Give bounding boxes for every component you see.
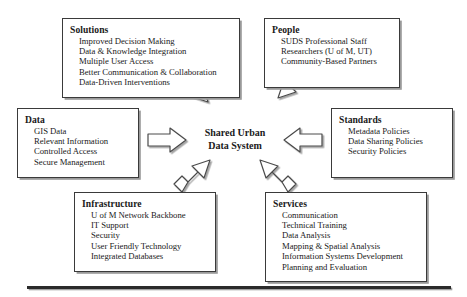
list-item: GIS Data [34, 126, 138, 136]
list-item: Multiple User Access [79, 56, 239, 66]
list-item: IT Support [91, 220, 215, 230]
list-item: Communication [282, 210, 426, 220]
node-box-services[interactable]: Services Communication Technical Trainin… [265, 192, 427, 282]
arrow-infrastructure-to-center [174, 160, 210, 192]
list-item: Better Communication & Collaboration [79, 67, 239, 77]
list-item: Information Systems Development [282, 251, 426, 261]
list-item: Data-Driven Interventions [79, 77, 239, 87]
list-item: Integrated Databases [91, 251, 215, 261]
list-item: Secure Management [34, 157, 138, 167]
bottom-divider-rule [27, 286, 451, 289]
node-box-solutions[interactable]: Solutions Improved Decision Making Data … [62, 18, 240, 98]
node-list-data: GIS Data Relevant Information Controlled… [18, 126, 138, 172]
node-list-solutions: Improved Decision Making Data & Knowledg… [63, 36, 239, 92]
diagram-canvas: Shared Urban Data System Solutions Impro… [0, 0, 467, 297]
node-box-infrastructure[interactable]: Infrastructure U of M Network Backbone I… [74, 192, 216, 272]
node-list-infrastructure: U of M Network Backbone IT Support Secur… [75, 210, 215, 266]
node-title-people: People [272, 24, 399, 36]
list-item: U of M Network Backbone [91, 210, 215, 220]
list-item: Planning and Evaluation [282, 262, 426, 272]
center-label-line-2: Data System [186, 139, 284, 152]
list-item: Relevant Information [34, 136, 138, 146]
node-list-people: SUDS Professional Staff Researchers (U o… [265, 36, 399, 71]
node-title-infrastructure: Infrastructure [82, 198, 215, 210]
list-item: Metadata Policies [348, 126, 452, 136]
list-item: Data Sharing Policies [348, 136, 452, 146]
list-item: Mapping & Spatial Analysis [282, 241, 426, 251]
list-item: Controlled Access [34, 146, 138, 156]
list-item: SUDS Professional Staff [281, 36, 399, 46]
list-item: Security Policies [348, 146, 452, 156]
node-title-data: Data [25, 114, 138, 126]
node-title-solutions: Solutions [70, 24, 239, 36]
list-item: Researchers (U of M, UT) [281, 46, 399, 56]
arrow-services-to-center [260, 160, 296, 192]
center-label: Shared Urban Data System [186, 126, 284, 152]
list-item: Data & Knowledge Integration [79, 46, 239, 56]
node-title-services: Services [273, 198, 426, 210]
list-item: User Friendly Technology [91, 241, 215, 251]
node-title-standards: Standards [339, 114, 452, 126]
node-box-data[interactable]: Data GIS Data Relevant Information Contr… [17, 108, 139, 178]
list-item: Data Analysis [282, 230, 426, 240]
arrow-standards-to-center [284, 128, 322, 152]
list-item: Community-Based Partners [281, 56, 399, 66]
list-item: Technical Training [282, 220, 426, 230]
list-item: Security [91, 230, 215, 240]
center-label-line-1: Shared Urban [186, 126, 284, 139]
list-item: Improved Decision Making [79, 36, 239, 46]
node-box-people[interactable]: People SUDS Professional Staff Researche… [264, 18, 400, 88]
node-box-standards[interactable]: Standards Metadata Policies Data Sharing… [331, 108, 453, 178]
node-list-services: Communication Technical Training Data An… [266, 210, 426, 276]
node-list-standards: Metadata Policies Data Sharing Policies … [332, 126, 452, 161]
arrow-data-to-center [148, 128, 186, 152]
